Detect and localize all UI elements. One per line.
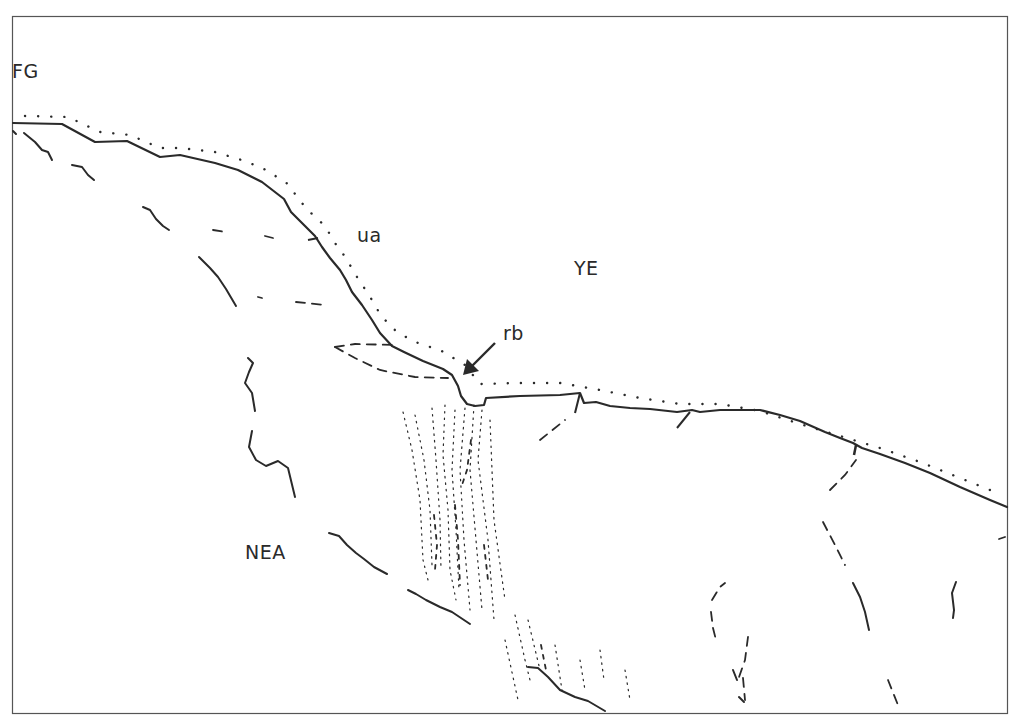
dotted-lineaments <box>403 405 630 700</box>
solid-fractures-right <box>733 582 956 702</box>
branch-mark <box>854 445 856 455</box>
main-boundary-line <box>13 123 1007 507</box>
branch-mark <box>575 393 580 413</box>
dashed-fractures <box>213 230 1005 705</box>
label-rb: rb <box>503 322 524 344</box>
solid-fractures <box>13 131 605 711</box>
rb-arrow-icon <box>463 343 495 375</box>
label-nea: NEA <box>245 541 286 563</box>
label-fg: FG <box>12 60 39 82</box>
branch-mark <box>677 412 690 428</box>
geological-sketch <box>0 0 1018 723</box>
figure-frame <box>13 17 1008 714</box>
dotted-margin-line <box>25 116 1000 494</box>
label-ua: ua <box>357 224 382 246</box>
dotted-lineaments-dark <box>434 440 546 670</box>
label-ye: YE <box>574 257 599 279</box>
